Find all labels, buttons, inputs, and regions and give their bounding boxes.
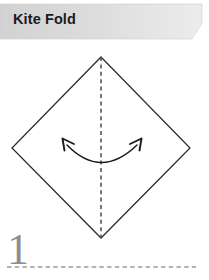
kite-fold-instruction-card: Kite Fold 1 xyxy=(0,0,209,280)
origami-diagram xyxy=(0,0,209,280)
footer-dashed-rule xyxy=(7,266,196,268)
